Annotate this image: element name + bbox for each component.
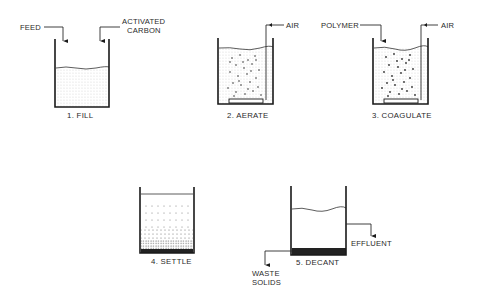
air-diffuser bbox=[229, 99, 263, 103]
effluent-label: EFFLUENT bbox=[351, 239, 392, 248]
tank-decant bbox=[291, 186, 346, 255]
polymer-label: POLYMER bbox=[321, 21, 359, 30]
air-label-aerate: AIR bbox=[286, 21, 300, 30]
clear-zone bbox=[141, 200, 193, 228]
polymer-arrow-icon bbox=[360, 25, 381, 41]
waste-label-line1: WASTE bbox=[252, 269, 280, 278]
feed-label: FEED bbox=[20, 23, 41, 32]
stage-label-settle: 4. SETTLE bbox=[151, 257, 192, 266]
air-arrow-icon bbox=[424, 23, 427, 27]
air-label-coagulate: AIR bbox=[441, 21, 455, 30]
thickening-zone bbox=[141, 240, 193, 249]
carbon-label-line1: ACTIVATED bbox=[122, 17, 166, 26]
settling-zone bbox=[141, 228, 193, 240]
stage-label-decant: 5. DECANT bbox=[296, 258, 339, 267]
carbon-label-line2: CARBON bbox=[127, 26, 161, 35]
stage-label-aerate: 2. AERATE bbox=[227, 111, 269, 120]
stage-decant: EFFLUENT WASTE SOLIDS 5. DECANT bbox=[252, 186, 392, 287]
liquid-surface bbox=[292, 207, 346, 212]
stage-settle: 4. SETTLE bbox=[140, 187, 194, 266]
treatment-process-diagram: FEED ACTIVATED CARBON 1. FILL AIR 2. AER… bbox=[0, 0, 479, 299]
carbon-arrow-icon bbox=[100, 27, 120, 41]
liquid-aerate bbox=[219, 48, 273, 104]
air-arrow-icon bbox=[269, 23, 272, 27]
waste-solids-arrow-icon bbox=[265, 251, 292, 265]
stage-aerate: AIR 2. AERATE bbox=[218, 21, 300, 120]
stage-label-coagulate: 3. COAGULATE bbox=[372, 111, 432, 120]
stage-label-fill: 1. FILL bbox=[67, 111, 94, 120]
stage-coagulate: POLYMER AIR 3. COAGULATE bbox=[321, 21, 455, 120]
effluent-arrow-icon bbox=[346, 224, 371, 236]
stage-fill: FEED ACTIVATED CARBON 1. FILL bbox=[20, 17, 166, 120]
feed-arrow-icon bbox=[44, 27, 63, 41]
waste-label-line2: SOLIDS bbox=[252, 278, 281, 287]
liquid-coagulate bbox=[374, 48, 428, 104]
liquid-fill bbox=[56, 68, 109, 107]
air-diffuser bbox=[384, 99, 418, 103]
sludge-layer bbox=[292, 248, 346, 255]
